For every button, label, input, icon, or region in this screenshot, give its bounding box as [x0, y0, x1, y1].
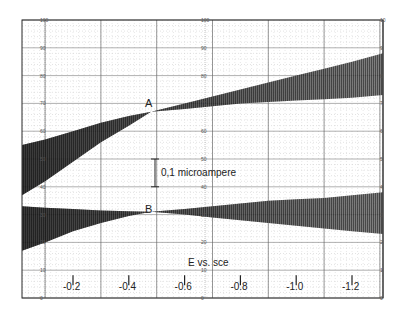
scale-bar — [151, 159, 159, 187]
y-tick-label: 7 — [380, 100, 383, 106]
y-tick-label: 3 — [380, 212, 383, 218]
x-tick-label: -0.8 — [230, 281, 247, 292]
point-a-label: A — [145, 97, 152, 109]
y-tick-label: 2 — [380, 239, 383, 245]
y-tick-label: 30 — [201, 212, 207, 218]
y-tick-label: 80 — [201, 73, 207, 79]
y-tick-label: 4 — [380, 184, 383, 190]
y-tick-label: 100 — [40, 17, 48, 23]
scale-bar-label: 0,1 microampere — [161, 167, 236, 178]
y-tick-label: 50 — [201, 156, 207, 162]
current-bands — [22, 53, 383, 250]
y-tick-label: 0 — [201, 295, 204, 301]
y-tick-label: 80 — [40, 73, 46, 79]
x-tick-label: -1.0 — [286, 281, 303, 292]
x-tick-label: -1.2 — [342, 281, 359, 292]
x-tick-label: -0.2 — [63, 281, 80, 292]
y-tick-label: 100 — [201, 17, 209, 23]
y-tick-label: 10 — [201, 267, 207, 273]
y-tick-label: 60 — [40, 128, 46, 134]
x-tick-label: -0.4 — [119, 281, 136, 292]
y-tick-label: 10 — [380, 17, 386, 23]
y-tick-label: 40 — [201, 184, 207, 190]
y-tick-label: 90 — [40, 45, 46, 51]
point-b-label: B — [145, 203, 152, 215]
y-tick-label: 70 — [201, 100, 207, 106]
y-tick-label: 6 — [380, 128, 383, 134]
y-tick-label: 0 — [380, 295, 383, 301]
y-tick-label: 0 — [40, 295, 43, 301]
x-tick-label: -0.6 — [175, 281, 192, 292]
y-tick-label: 9 — [380, 45, 383, 51]
y-tick-label: 40 — [40, 184, 46, 190]
x-axis-title: E vs. sce — [188, 257, 229, 268]
y-tick-label: 30 — [40, 212, 46, 218]
y-tick-label: 20 — [40, 239, 46, 245]
y-tick-label: 8 — [380, 73, 383, 79]
y-tick-label: 90 — [201, 45, 207, 51]
y-tick-label: 50 — [40, 156, 46, 162]
y-tick-label: 1 — [380, 267, 383, 273]
y-tick-label: 60 — [201, 128, 207, 134]
y-tick-label: 5 — [380, 156, 383, 162]
y-tick-label: 10 — [40, 267, 46, 273]
y-tick-label: 70 — [40, 100, 46, 106]
y-tick-label: 20 — [201, 239, 207, 245]
